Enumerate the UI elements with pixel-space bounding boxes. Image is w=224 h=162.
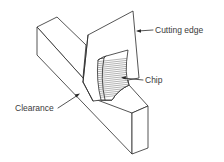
label-clearance: Clearance [15, 104, 54, 113]
leader-cutting-edge [136, 29, 153, 32]
label-chip: Chip [145, 76, 162, 85]
arrowhead-icon [136, 29, 141, 32]
workpiece-front-face [132, 106, 148, 154]
label-cutting-edge: Cutting edge [155, 26, 203, 35]
diagram-canvas: Cutting edge Chip Clearance [0, 0, 224, 162]
leader-clearance [58, 94, 80, 109]
